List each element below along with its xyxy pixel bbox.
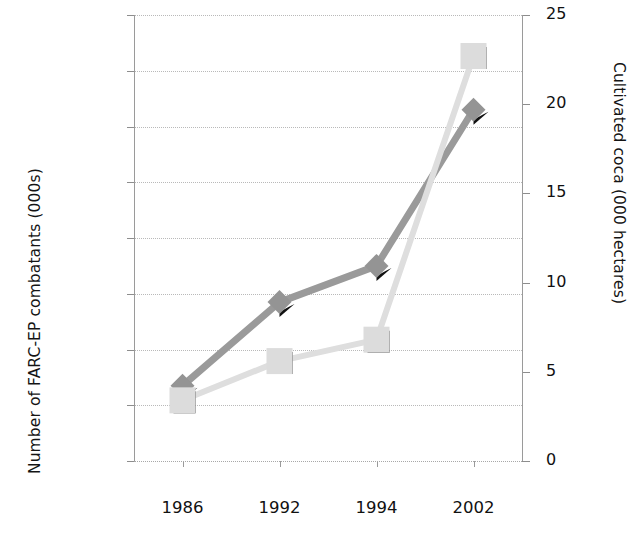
data-point-marker <box>364 327 390 353</box>
chart-figure: Number of FARC-EP combatants (000s) Cult… <box>0 0 640 542</box>
data-point-marker <box>170 387 196 413</box>
series-layer <box>0 0 640 542</box>
data-point-marker <box>365 254 392 281</box>
data-point-marker <box>267 348 293 374</box>
data-point-marker <box>461 43 487 69</box>
series-line <box>183 110 474 386</box>
